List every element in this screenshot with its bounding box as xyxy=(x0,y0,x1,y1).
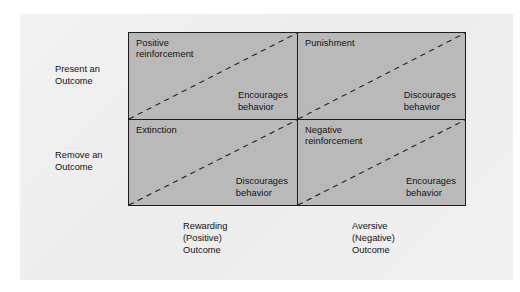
row-label-present-an-outcome: Present an Outcome xyxy=(55,63,125,87)
quadrant-title-extinction: Extinction xyxy=(136,125,177,136)
quadrant-effect-positive-reinforcement: Encourages behavior xyxy=(238,90,288,113)
quadrant-title-negative-reinforcement: Negative reinforcement xyxy=(305,125,363,148)
contingency-matrix: Positive reinforcement Encourages behavi… xyxy=(128,32,466,206)
column-label-aversive-negative-outcome: Aversive (Negative) Outcome xyxy=(352,220,395,256)
quadrant-extinction: Extinction Discourages behavior xyxy=(129,119,297,205)
quadrant-punishment: Punishment Discourages behavior xyxy=(297,33,465,119)
quadrant-effect-extinction: Discourages behavior xyxy=(236,176,288,199)
quadrant-negative-reinforcement: Negative reinforcement Encourages behavi… xyxy=(297,119,465,205)
quadrant-effect-negative-reinforcement: Encourages behavior xyxy=(406,176,456,199)
figure-page: Present an Outcome Remove an Outcome Pos… xyxy=(0,0,520,292)
column-label-rewarding-positive-outcome: Rewarding (Positive) Outcome xyxy=(183,220,227,256)
quadrant-positive-reinforcement: Positive reinforcement Encourages behavi… xyxy=(129,33,297,119)
quadrant-title-punishment: Punishment xyxy=(305,38,355,49)
quadrant-effect-punishment: Discourages behavior xyxy=(404,90,456,113)
quadrant-title-positive-reinforcement: Positive reinforcement xyxy=(136,38,194,61)
row-label-remove-an-outcome: Remove an Outcome xyxy=(55,149,125,173)
